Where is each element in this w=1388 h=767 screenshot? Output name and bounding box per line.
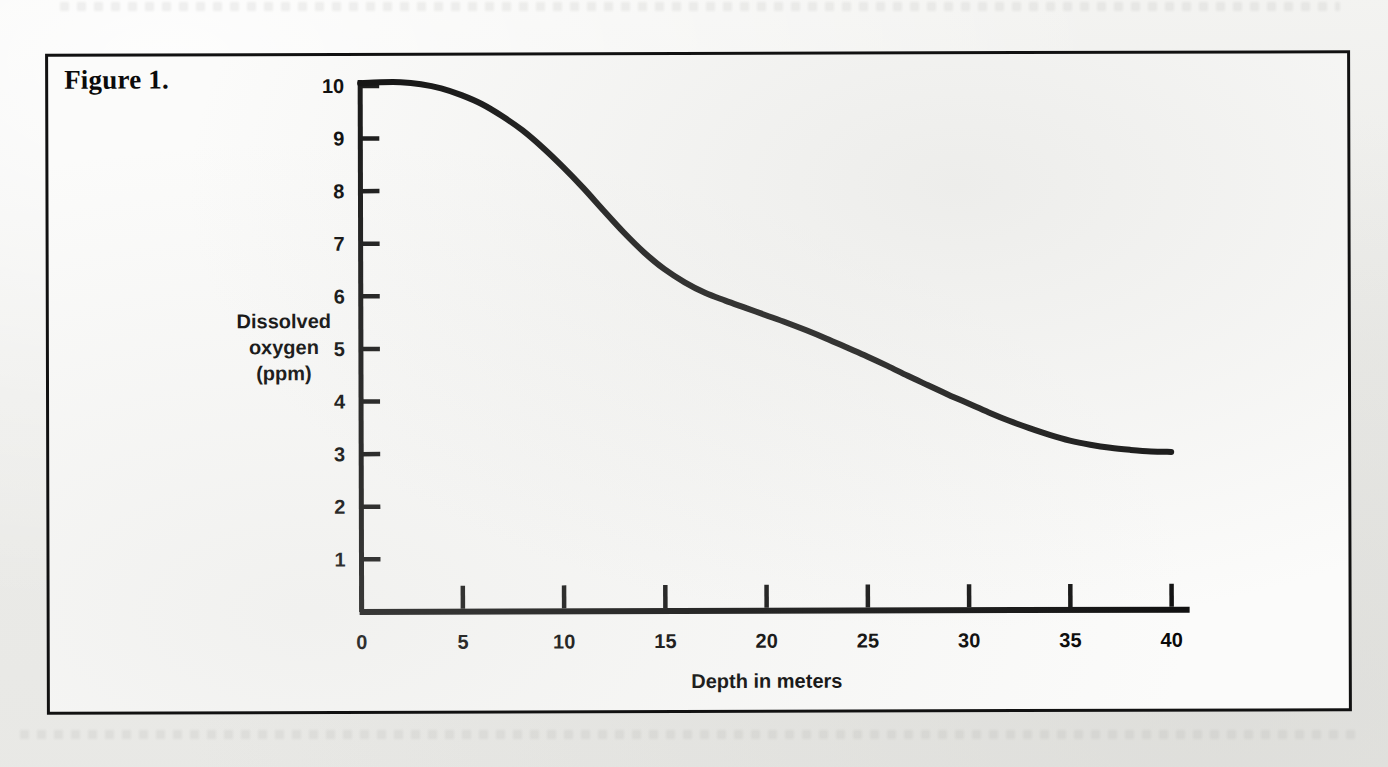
line-chart: 12345678910 0510152025303540 — [48, 53, 1355, 718]
x-axis-tick-label: 35 — [1059, 629, 1081, 651]
y-axis-ticks: 12345678910 — [322, 75, 381, 571]
y-axis-tick-label: 5 — [334, 338, 345, 360]
scanned-page: Figure 1. Dissolved oxygen (ppm) Depth i… — [0, 0, 1388, 767]
x-axis-tick-label: 0 — [356, 631, 367, 653]
x-axis-tick-label: 20 — [756, 630, 778, 652]
y-axis-tick-label: 3 — [334, 443, 345, 465]
data-line — [360, 80, 1171, 454]
x-axis-tick-label: 25 — [857, 629, 879, 651]
figure-frame: Figure 1. Dissolved oxygen (ppm) Depth i… — [45, 50, 1352, 715]
y-axis-tick-label: 7 — [333, 233, 344, 255]
x-axis-line — [360, 610, 1190, 612]
bleed-through-text — [20, 730, 1360, 739]
data-series — [360, 80, 1171, 454]
x-axis-tick-label: 40 — [1161, 629, 1183, 651]
axes — [358, 78, 1189, 612]
bleed-through-text — [60, 2, 1340, 11]
y-axis-tick-label: 9 — [333, 128, 344, 150]
y-axis-line — [360, 80, 361, 612]
x-axis-tick-label: 10 — [553, 630, 575, 652]
x-axis-tick-label: 30 — [958, 629, 980, 651]
x-axis-tick-label: 15 — [654, 630, 676, 652]
y-axis-tick-label: 4 — [334, 391, 346, 413]
y-axis-tick-label: 6 — [334, 285, 345, 307]
x-axis-tick-label: 5 — [457, 631, 468, 653]
y-axis-tick-label: 8 — [333, 180, 344, 202]
y-axis-tick-label: 2 — [334, 496, 345, 518]
x-axis-ticks: 0510152025303540 — [356, 584, 1183, 653]
y-axis-tick-label: 1 — [334, 548, 345, 570]
y-axis-tick-label: 10 — [322, 75, 344, 97]
